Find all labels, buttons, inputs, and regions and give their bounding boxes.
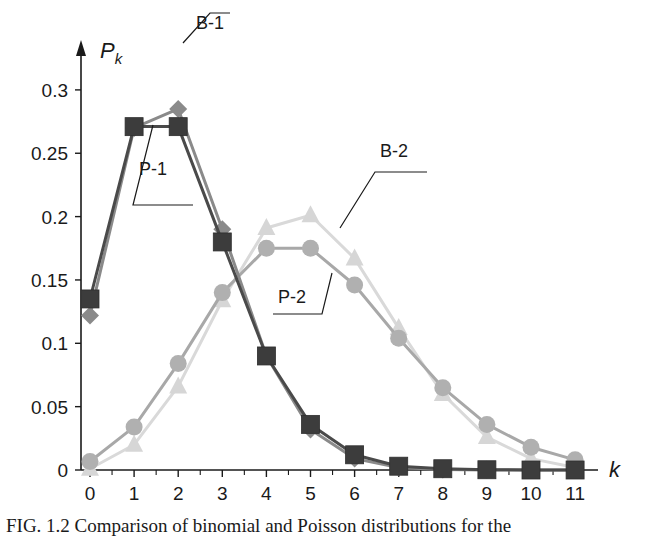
square-marker-icon xyxy=(257,347,275,365)
y-tick-label: 0 xyxy=(57,460,68,481)
x-ticks: 01234567891011 xyxy=(85,470,585,504)
circle-marker-icon xyxy=(346,277,363,294)
x-tick-label: 5 xyxy=(305,483,316,504)
y-tick-label: 0.15 xyxy=(31,270,68,291)
x-tick-label: 4 xyxy=(261,483,272,504)
diamond-marker-icon xyxy=(81,306,99,324)
y-ticks: 00.050.10.150.20.250.3 xyxy=(31,80,81,481)
series-line xyxy=(90,248,575,461)
circle-marker-icon xyxy=(478,416,495,433)
callout-p2-label: P-2 xyxy=(278,287,306,307)
square-marker-icon xyxy=(390,457,408,475)
x-tick-label: 1 xyxy=(129,483,140,504)
x-tick-label: 3 xyxy=(217,483,228,504)
square-marker-icon xyxy=(434,460,452,478)
circle-marker-icon xyxy=(258,240,275,257)
square-marker-icon xyxy=(478,461,496,479)
square-marker-icon xyxy=(302,415,320,433)
series-layer xyxy=(81,100,584,479)
triangle-marker-icon xyxy=(169,376,187,393)
figure-caption: FIG. 1.2 Comparison of binomial and Pois… xyxy=(6,515,511,537)
circle-marker-icon xyxy=(126,418,143,435)
square-marker-icon xyxy=(522,461,540,479)
circle-marker-icon xyxy=(214,284,231,301)
diamond-marker-icon xyxy=(169,100,187,118)
square-marker-icon xyxy=(346,446,364,464)
series-line xyxy=(90,215,575,468)
x-tick-label: 0 xyxy=(85,483,96,504)
circle-marker-icon xyxy=(82,453,99,470)
y-tick-label: 0.1 xyxy=(42,333,68,354)
x-tick-label: 9 xyxy=(482,483,493,504)
x-tick-label: 2 xyxy=(173,483,184,504)
callouts: B-1 P-1 B-2 P-2 xyxy=(133,13,427,314)
circle-marker-icon xyxy=(434,379,451,396)
x-tick-label: 10 xyxy=(520,483,541,504)
y-axis-title: Pk xyxy=(100,38,124,67)
circle-marker-icon xyxy=(170,355,187,372)
square-marker-icon xyxy=(169,118,187,136)
x-tick-label: 6 xyxy=(349,483,360,504)
square-marker-icon xyxy=(213,233,231,251)
y-tick-label: 0.3 xyxy=(42,80,68,101)
series-b-1 xyxy=(81,100,584,479)
square-marker-icon xyxy=(125,118,143,136)
y-tick-label: 0.25 xyxy=(31,143,68,164)
x-tick-label: 7 xyxy=(393,483,404,504)
x-tick-label: 8 xyxy=(438,483,449,504)
square-marker-icon xyxy=(566,461,584,479)
x-tick-label: 11 xyxy=(565,483,585,504)
series-p-2 xyxy=(82,240,584,470)
circle-marker-icon xyxy=(523,439,540,456)
callout-b2-label: B-2 xyxy=(380,141,408,161)
y-tick-label: 0.05 xyxy=(31,397,68,418)
square-marker-icon xyxy=(81,290,99,308)
callout-b2-leader xyxy=(340,172,427,228)
y-axis-arrow-icon xyxy=(76,40,86,56)
circle-marker-icon xyxy=(302,240,319,257)
circle-marker-icon xyxy=(390,330,407,347)
x-axis-title: k xyxy=(609,457,621,482)
triangle-marker-icon xyxy=(302,205,320,222)
y-tick-label: 0.2 xyxy=(42,207,68,228)
